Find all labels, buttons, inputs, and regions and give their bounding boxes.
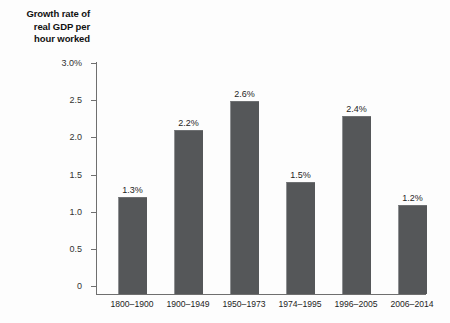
bar[interactable]: 1.2%: [398, 205, 427, 294]
bar-group-1: 2.2%1900–1949: [160, 130, 216, 294]
bar[interactable]: 1.3%: [118, 197, 147, 294]
bar-value-label: 1.3%: [122, 185, 143, 195]
x-tick-label-5: 2006–2014: [390, 299, 433, 309]
y-axis-line: [96, 62, 97, 295]
x-tick-label-1: 1900–1949: [166, 299, 209, 309]
y-tick-6: 3.0%: [91, 63, 96, 64]
y-tick-0: 0: [91, 286, 96, 287]
y-tick-2: 1.0: [91, 212, 96, 213]
chart-page: Growth rate of real GDP per hour worked …: [0, 0, 450, 323]
y-axis-title-line-2: real GDP per: [8, 21, 90, 34]
y-tick-5: 2.5: [91, 100, 96, 101]
y-tick-label-1: 0.5: [69, 244, 82, 254]
y-tick-1: 0.5: [91, 249, 96, 250]
y-axis-title-line-1: Growth rate of: [8, 8, 90, 21]
y-tick-label-6: 3.0%: [61, 58, 82, 68]
y-tick-label-2: 1.0: [69, 207, 82, 217]
y-tick-label-5: 2.5: [69, 95, 82, 105]
y-axis-title-line-3: hour worked: [8, 33, 90, 46]
y-axis-title: Growth rate of real GDP per hour worked: [8, 8, 90, 46]
bar-group-0: 1.3%1800–1900: [104, 197, 160, 294]
bar-value-label: 2.4%: [346, 104, 367, 114]
x-tick-label-0: 1800–1900: [110, 299, 153, 309]
y-tick-label-3: 1.5: [69, 170, 82, 180]
bar-value-label: 2.2%: [178, 118, 199, 128]
y-tick-3: 1.5: [91, 175, 96, 176]
bar-value-label: 2.6%: [234, 89, 255, 99]
bar-group-3: 1.5%1974–1995: [272, 182, 328, 294]
plot-area: 00.51.01.52.02.53.0% 1.3%1800–19002.2%19…: [96, 62, 426, 295]
bar-value-label: 1.2%: [402, 193, 423, 203]
bar[interactable]: 2.6%: [230, 101, 259, 294]
x-tick-label-2: 1950–1973: [222, 299, 265, 309]
bar-value-label: 1.5%: [290, 170, 311, 180]
bar-group-5: 1.2%2006–2014: [384, 205, 440, 294]
bar[interactable]: 1.5%: [286, 182, 315, 294]
x-tick-label-4: 1996–2005: [334, 299, 377, 309]
y-tick-4: 2.0: [91, 137, 96, 138]
bar[interactable]: 2.2%: [174, 130, 203, 294]
x-tick-label-3: 1974–1995: [278, 299, 321, 309]
bar-group-4: 2.4%1996–2005: [328, 116, 384, 294]
y-tick-label-4: 2.0: [69, 132, 82, 142]
bar[interactable]: 2.4%: [342, 116, 371, 294]
y-tick-label-0: 0: [77, 281, 82, 291]
x-axis-line: [96, 294, 426, 295]
bar-group-2: 2.6%1950–1973: [216, 101, 272, 294]
